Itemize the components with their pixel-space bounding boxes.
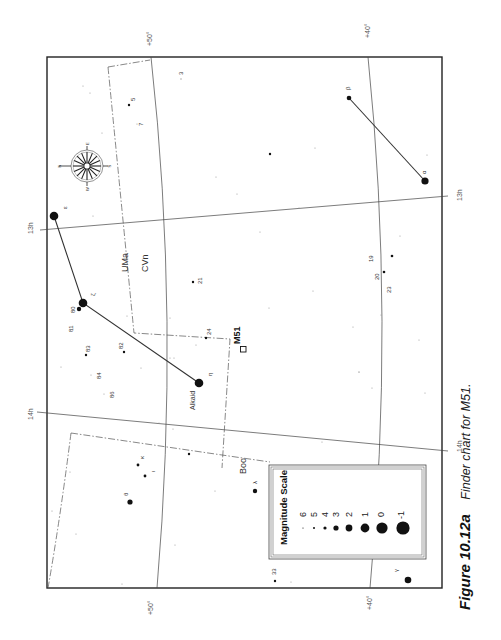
ra-line-14h — [37, 412, 448, 451]
label-beta: β — [345, 86, 351, 90]
caption-text: Finder chart for M51. — [459, 384, 473, 500]
m51-label: M51 — [232, 326, 242, 344]
star-iota — [144, 475, 147, 478]
label-eta: η — [207, 373, 213, 376]
label-5: 5 — [130, 97, 136, 101]
mag-label-6: 6 — [298, 512, 308, 517]
mag-dot-6 — [302, 527, 303, 528]
dec-label-bottom-plus50: +50° — [147, 600, 154, 615]
star-alpha — [421, 177, 428, 184]
mag-label-1: 1 — [360, 512, 370, 517]
label-3: 3 — [178, 71, 184, 75]
star-19 — [391, 255, 394, 258]
label-24: 24 — [206, 328, 212, 335]
star-20 — [383, 271, 386, 274]
mag-dot-neg1 — [396, 521, 409, 534]
star-eta — [195, 379, 204, 388]
star-80 — [77, 307, 81, 311]
figure-label: Figure 10.12a — [456, 514, 473, 610]
mag-label-neg1: -1 — [396, 511, 406, 519]
label-epsilon: ε — [62, 206, 68, 209]
label-gamma: γ — [393, 569, 399, 572]
ra-label-left-13h: 13h — [27, 222, 34, 234]
dec-label-top-plus50: +50° — [146, 31, 153, 46]
magnitude-scale-legend: Magnitude Scale 6 5 4 3 2 1 0 -1 — [269, 465, 426, 559]
label-23: 23 — [386, 286, 392, 293]
mag-label-2: 2 — [344, 512, 354, 517]
star-zeta — [79, 299, 88, 308]
star-24 — [205, 337, 207, 339]
m51-marker — [241, 347, 247, 353]
mag-dot-4 — [323, 526, 326, 529]
label-19: 19 — [368, 255, 374, 262]
label-33: 33 — [271, 568, 277, 575]
label-80: 80 — [70, 306, 76, 313]
compass-s-label: S — [107, 165, 112, 168]
mag-dot-2 — [346, 525, 353, 532]
label-alkaid: Alkaid — [189, 391, 196, 410]
magnitude-scale-title: Magnitude Scale — [278, 470, 289, 545]
figure-caption: Figure 10.12a Finder chart for M51. — [456, 384, 473, 610]
label-81: 81 — [68, 325, 74, 332]
mag-dot-5 — [313, 527, 315, 529]
star-kappa — [137, 464, 140, 467]
mag-label-0: 0 — [376, 512, 386, 517]
label-7: 7 — [138, 122, 144, 126]
label-82: 82 — [118, 342, 124, 349]
star-epsilon — [50, 212, 59, 221]
compass-n-label: N — [57, 165, 62, 168]
star-lambda — [253, 489, 257, 493]
ra-label-right-13h: 13h — [456, 189, 463, 201]
compass-rose-icon: N E S W — [57, 142, 112, 191]
mag-dot-3 — [333, 525, 338, 530]
constellation-label-cvn: CVn — [140, 254, 150, 272]
label-iota: ι — [150, 470, 156, 472]
star-33 — [274, 580, 276, 582]
star-unnamed-2 — [188, 453, 190, 455]
label-20: 20 — [374, 273, 380, 280]
label-lambda: λ — [252, 481, 258, 484]
dec-label-bottom-plus40: +40° — [366, 595, 373, 610]
asterism-big-dipper-handle — [54, 216, 199, 383]
label-86: 86 — [109, 391, 115, 398]
dec-label-top-plus40: +40° — [364, 23, 371, 38]
mag-label-5: 5 — [309, 512, 319, 517]
star-21 — [192, 281, 194, 283]
asterism-cvn — [349, 98, 425, 181]
star-unnamed-1 — [269, 153, 271, 155]
star-gamma — [405, 577, 412, 584]
star-5 — [128, 104, 130, 106]
label-83: 83 — [85, 345, 91, 352]
label-84: 84 — [96, 372, 102, 379]
mag-label-4: 4 — [320, 512, 330, 517]
ra-line-13h — [40, 196, 448, 230]
label-alpha: α — [421, 170, 427, 174]
mag-label-3: 3 — [331, 512, 341, 517]
star-82 — [123, 351, 125, 353]
star-83 — [85, 354, 87, 356]
finder-chart: M51 N E — [0, 0, 501, 640]
dec-line-plus50 — [151, 57, 167, 588]
star-beta — [347, 96, 352, 101]
constellation-label-boo: Boo — [238, 458, 248, 474]
label-zeta: ζ — [90, 293, 96, 296]
compass-w-label: W — [85, 187, 90, 191]
label-theta: θ — [123, 492, 129, 496]
mag-dot-1 — [361, 524, 370, 533]
ra-label-left-14h: 14h — [27, 408, 34, 420]
label-kappa: κ — [139, 455, 145, 459]
constellation-label-uma: UMa — [120, 253, 130, 272]
compass-e-label: E — [85, 142, 90, 145]
mag-dot-0 — [376, 522, 387, 533]
label-21: 21 — [197, 277, 203, 284]
star-theta — [127, 499, 132, 504]
